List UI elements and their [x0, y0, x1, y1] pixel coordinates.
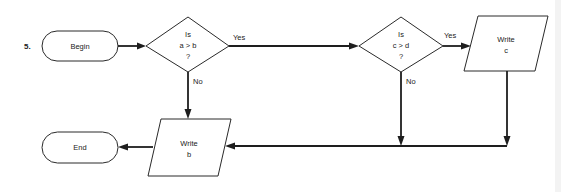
decision1-line2: a > b	[180, 41, 197, 50]
decision2-line3: ?	[399, 52, 403, 61]
decision-a-gt-b: Is a > b ?	[146, 17, 229, 72]
arrowhead-icon	[398, 136, 405, 146]
arrowhead-icon	[504, 136, 511, 146]
end-label: End	[73, 143, 86, 152]
d1-no-label: No	[193, 77, 203, 86]
decision2-line1: Is	[398, 30, 404, 39]
write-c-line1: Write	[497, 35, 514, 44]
write-b-line2: b	[187, 150, 191, 159]
end-terminal: End	[42, 132, 118, 163]
d2-no-label: No	[406, 77, 416, 86]
decision1-line3: ?	[186, 52, 190, 61]
write-b-output: Write b	[148, 119, 231, 176]
write-b-line1: Write	[180, 139, 197, 148]
write-c-output: Write c	[464, 16, 548, 71]
arrowhead-icon	[118, 144, 128, 151]
decision1-line1: Is	[185, 30, 191, 39]
d2-yes-label: Yes	[444, 31, 456, 40]
arrowhead-icon	[225, 143, 235, 150]
flowchart: 5. Begin Is a > b ? Yes No Is c > d ? Ye…	[0, 0, 561, 192]
d1-yes-label: Yes	[233, 33, 245, 42]
arrowhead-icon	[185, 109, 192, 119]
decision-c-gt-d: Is c > d ?	[359, 17, 443, 72]
write-c-line2: c	[504, 46, 508, 55]
begin-label: Begin	[70, 42, 89, 51]
begin-terminal: Begin	[42, 31, 118, 61]
arrowhead-icon	[137, 43, 146, 50]
arrowhead-icon	[349, 43, 359, 50]
decision2-line2: c > d	[393, 41, 409, 50]
problem-number: 5.	[24, 42, 31, 51]
